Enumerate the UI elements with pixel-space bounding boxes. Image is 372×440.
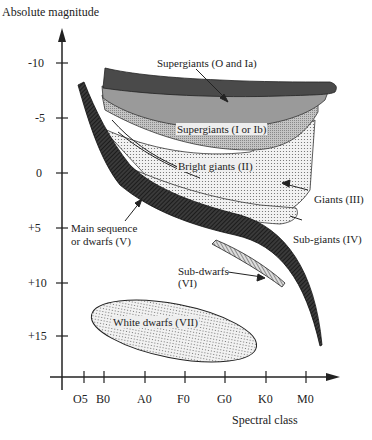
- label-white-dwarfs: White dwarfs (VII): [112, 316, 199, 328]
- label-subgiants: Sub-giants (IV): [293, 233, 362, 245]
- y-tick: +15: [28, 329, 47, 344]
- x-tick: B0: [96, 392, 110, 407]
- y-tick: +10: [28, 276, 47, 291]
- y-axis: [56, 28, 68, 390]
- label-sub-dwarfs-1: Sub-dwarfs: [178, 265, 229, 277]
- region-white-dwarfs: [86, 288, 261, 373]
- label-giants: Giants (III): [314, 193, 364, 205]
- x-axis: [50, 371, 340, 383]
- label-supergiants-ia: Supergiants (O and Ia): [157, 57, 257, 69]
- y-tick: 0: [36, 166, 42, 181]
- label-bright-giants: Bright giants (II): [177, 160, 254, 172]
- y-tick: -5: [35, 111, 45, 126]
- label-supergiants-ib: Supergiants (I or Ib): [176, 123, 267, 135]
- y-tick: -10: [28, 56, 44, 71]
- x-tick: G0: [217, 392, 232, 407]
- label-sub-dwarfs-2: (VI): [178, 277, 197, 289]
- x-tick: O5: [73, 392, 88, 407]
- label-main-sequence-2: or dwarfs (V): [71, 235, 131, 247]
- x-tick: F0: [177, 392, 190, 407]
- y-tick: +5: [28, 221, 41, 236]
- y-axis-label: Absolute magnitude: [2, 6, 99, 18]
- x-tick: M0: [297, 392, 314, 407]
- x-axis-label: Spectral class: [232, 414, 298, 426]
- label-main-sequence-1: Main sequence: [71, 222, 137, 234]
- x-tick: A0: [137, 392, 152, 407]
- x-tick: K0: [258, 392, 273, 407]
